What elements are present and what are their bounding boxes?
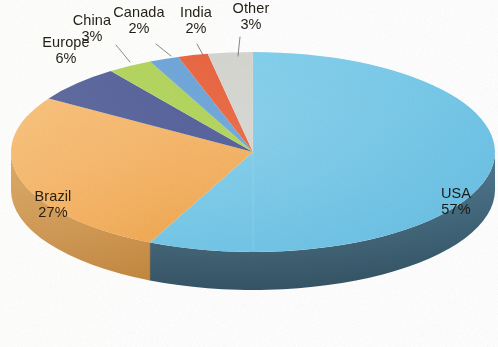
label-brazil: Brazil 27% <box>16 188 90 220</box>
leader-india <box>197 44 203 55</box>
label-usa-pct: 57% <box>430 201 482 217</box>
label-india-pct: 2% <box>171 20 221 36</box>
label-canada-name: Canada <box>108 4 170 20</box>
label-other-pct: 3% <box>224 16 278 32</box>
leader-canada <box>156 44 171 56</box>
label-brazil-pct: 27% <box>16 204 90 220</box>
label-usa: USA 57% <box>430 185 482 217</box>
label-brazil-name: Brazil <box>16 188 90 204</box>
label-india: India 2% <box>171 4 221 36</box>
pie-top-face <box>11 52 495 252</box>
label-india-name: India <box>171 4 221 20</box>
label-other: Other 3% <box>224 0 278 32</box>
pie-chart-figure: Europe 6% China 3% Canada 2% India 2% Ot… <box>0 0 498 347</box>
leader-china <box>116 45 130 62</box>
label-canada-pct: 2% <box>108 20 170 36</box>
label-europe-pct: 6% <box>30 50 102 66</box>
label-canada: Canada 2% <box>108 4 170 36</box>
label-other-name: Other <box>224 0 278 16</box>
label-usa-name: USA <box>430 185 482 201</box>
